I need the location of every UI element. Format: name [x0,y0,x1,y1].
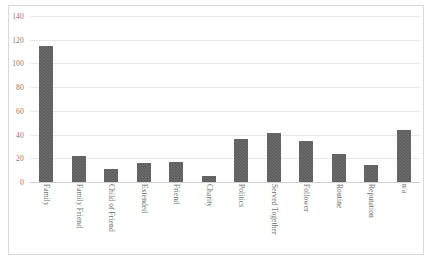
bar[interactable] [364,165,378,182]
chart-page: 020406080100120140 FamilyFamily FriendCh… [0,0,432,268]
bar-slot [323,16,356,182]
x-label-slot: Served Together [258,184,291,254]
bar-series [30,16,420,182]
y-tick-label-60: 60 [16,106,24,115]
x-label-slot: Friend [160,184,193,254]
bar-slot [355,16,388,182]
x-label-slot: Reputation [355,184,388,254]
bar-slot [160,16,193,182]
bar[interactable] [267,133,281,182]
bar[interactable] [234,139,248,182]
bar-slot [290,16,323,182]
x-tick-label: Served Together [269,184,278,235]
x-tick-label: Follower [302,184,311,212]
x-tick-label: Charity [204,184,213,207]
bar-slot [63,16,96,182]
x-tick-label: Family [42,184,51,206]
x-tick-label: Extended [139,184,148,213]
bar[interactable] [397,130,411,182]
y-tick-label-140: 140 [12,12,24,21]
x-tick-label: Routine [334,184,343,208]
bar[interactable] [39,46,53,182]
bar-slot [225,16,258,182]
bar[interactable] [72,156,86,182]
x-tick-label: Child of Friend [107,184,116,232]
y-tick-label-80: 80 [16,83,24,92]
bar[interactable] [202,176,216,182]
bar-slot [128,16,161,182]
gridline-0 [30,182,420,183]
x-axis-labels: FamilyFamily FriendChild of FriendExtend… [30,184,420,254]
x-tick-label: Reputation [367,184,376,218]
x-label-slot: Family Friend [63,184,96,254]
y-tick-label-20: 20 [16,154,24,163]
bar-slot [30,16,63,182]
x-label-slot: Routine [323,184,356,254]
bar-slot [388,16,421,182]
y-tick-label-40: 40 [16,130,24,139]
x-tick-label: Family Friend [74,184,83,228]
plot-area [30,16,420,182]
x-tick-label: Friend [172,184,181,204]
bar[interactable] [137,163,151,182]
x-label-slot: Politics [225,184,258,254]
y-tick-label-120: 120 [12,35,24,44]
bar[interactable] [299,141,313,183]
x-label-slot: Child of Friend [95,184,128,254]
bar[interactable] [169,162,183,182]
x-label-slot: Follower [290,184,323,254]
x-label-slot: Charity [193,184,226,254]
x-label-slot: Family [30,184,63,254]
bar-slot [95,16,128,182]
y-tick-label-0: 0 [20,178,24,187]
bar[interactable] [104,169,118,182]
x-tick-label: n/a [399,184,408,193]
bar-slot [258,16,291,182]
y-axis-labels: 020406080100120140 [0,16,28,182]
x-tick-label: Politics [237,184,246,207]
y-tick-label-100: 100 [12,59,24,68]
bar-slot [193,16,226,182]
x-label-slot: n/a [388,184,421,254]
x-label-slot: Extended [128,184,161,254]
bar[interactable] [332,154,346,182]
